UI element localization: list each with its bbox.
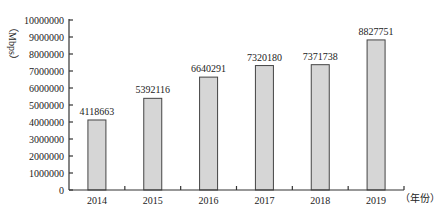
x-axis-ticks: 201420152016201720182019	[87, 186, 404, 206]
y-tick-label: 9000000	[29, 32, 64, 43]
bar-value-label: 8827751	[359, 26, 394, 37]
bar-2014	[88, 120, 106, 190]
y-tick-label: 5000000	[29, 100, 64, 111]
bar-2018	[311, 65, 329, 190]
x-tick-label: 2019	[366, 195, 386, 206]
bar-value-label: 6640291	[191, 63, 226, 74]
y-tick-label: 6000000	[29, 83, 64, 94]
bar-2019	[367, 40, 385, 190]
x-tick-label: 2017	[254, 195, 274, 206]
bars: 4118663539211666402917320180737173888277…	[80, 26, 394, 190]
y-tick-label: 2000000	[29, 151, 64, 162]
x-tick-label: 2018	[310, 195, 330, 206]
bar-chart: 0100000020000003000000400000050000006000…	[0, 0, 443, 220]
bar-value-label: 4118663	[80, 106, 115, 117]
x-axis-label: （年份）	[400, 190, 440, 205]
bar-value-label: 7371738	[303, 51, 338, 62]
y-tick-label: 7000000	[29, 66, 64, 77]
bar-value-label: 5392116	[135, 84, 170, 95]
bar-value-label: 7320180	[247, 52, 282, 63]
y-axis-label: （Mbps）	[6, 22, 20, 65]
y-tick-label: 10000000	[24, 15, 64, 26]
y-axis-ticks: 0100000020000003000000400000050000006000…	[24, 15, 73, 196]
x-tick-label: 2016	[199, 195, 219, 206]
y-tick-label: 1000000	[29, 168, 64, 179]
y-tick-label: 0	[59, 185, 64, 196]
bar-2017	[255, 66, 273, 190]
y-tick-label: 8000000	[29, 49, 64, 60]
x-tick-label: 2014	[87, 195, 107, 206]
bar-2016	[200, 77, 218, 190]
bar-2015	[144, 98, 162, 190]
y-tick-label: 3000000	[29, 134, 64, 145]
y-tick-label: 4000000	[29, 117, 64, 128]
x-tick-label: 2015	[143, 195, 163, 206]
